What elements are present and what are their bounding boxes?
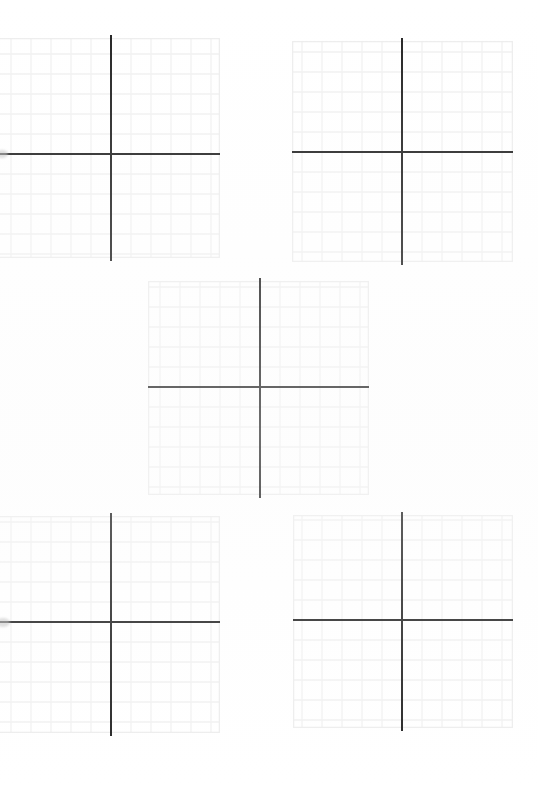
plot-top-left[interactable] <box>0 38 220 258</box>
y-axis <box>401 512 403 731</box>
plot-top-right[interactable] <box>292 41 513 262</box>
y-axis <box>110 513 112 736</box>
y-axis <box>401 38 403 265</box>
y-axis <box>110 35 112 261</box>
plot-bottom-left[interactable] <box>0 516 220 733</box>
plot-middle-center[interactable] <box>148 281 369 495</box>
worksheet-page <box>0 0 538 788</box>
y-axis <box>259 278 261 498</box>
plot-bottom-right[interactable] <box>293 515 513 728</box>
